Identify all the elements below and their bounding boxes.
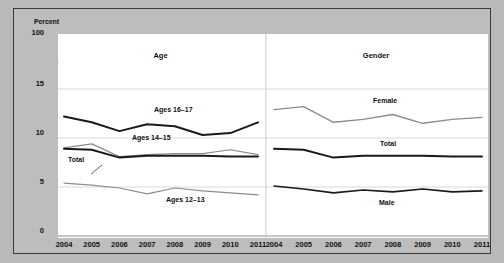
series-line-total: [274, 149, 482, 158]
x-tick-gender-panel-2011: 2011: [469, 240, 495, 249]
x-tick-gender-panel-2004: 2004: [261, 240, 287, 249]
series-label-male: Male: [379, 199, 395, 206]
panel-title-age: Age: [58, 51, 263, 60]
series-label-total-gender: Total: [380, 140, 396, 147]
x-tick-age-panel-2006: 2006: [106, 240, 132, 249]
y-tick-10: 10: [22, 128, 44, 137]
plot-area: [58, 34, 488, 238]
x-tick-age-panel-2004: 2004: [51, 240, 77, 249]
series-label-ages-12-13: Ages 12–13: [166, 196, 205, 203]
series-line-ages-12-13: [64, 183, 258, 195]
y-tick-100: 100: [22, 28, 44, 37]
x-tick-gender-panel-2009: 2009: [410, 240, 436, 249]
series-line-female: [274, 107, 482, 124]
series-label-ages-16-17: Ages 16–17: [154, 106, 193, 113]
series-label-total-age: Total: [68, 156, 84, 163]
chart-svg: [58, 34, 488, 238]
x-tick-gender-panel-2007: 2007: [350, 240, 376, 249]
x-tick-age-panel-2009: 2009: [190, 240, 216, 249]
x-tick-age-panel-2010: 2010: [217, 240, 243, 249]
x-tick-age-panel-2005: 2005: [79, 240, 105, 249]
chart-frame: Percent 100 15 10 5 0 Age Gender Ages 16…: [13, 8, 491, 254]
y-tick-5: 5: [22, 177, 44, 186]
x-tick-age-panel-2007: 2007: [134, 240, 160, 249]
total-leader-line: [91, 165, 102, 174]
panel-title-gender: Gender: [264, 51, 488, 60]
series-label-female: Female: [373, 97, 397, 104]
y-tick-15: 15: [22, 79, 44, 88]
x-tick-age-panel-2008: 2008: [162, 240, 188, 249]
x-tick-gender-panel-2010: 2010: [439, 240, 465, 249]
series-line-ages-16-17: [64, 116, 258, 135]
y-axis-title: Percent: [34, 18, 59, 25]
x-tick-gender-panel-2008: 2008: [380, 240, 406, 249]
y-tick-0: 0: [22, 226, 44, 235]
x-tick-gender-panel-2006: 2006: [320, 240, 346, 249]
figure-container: Percent 100 15 10 5 0 Age Gender Ages 16…: [0, 0, 504, 263]
x-tick-gender-panel-2005: 2005: [291, 240, 317, 249]
series-label-ages-14-15: Ages 14–15: [132, 134, 171, 141]
